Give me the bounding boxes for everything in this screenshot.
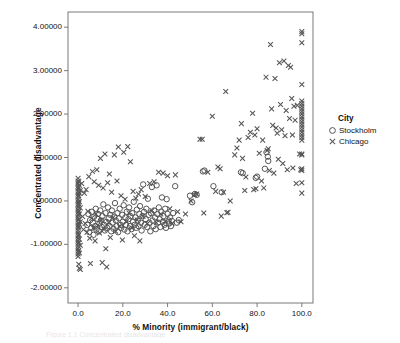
scatter-plot-figure: Concentrated disadvantage % Minority (im…: [0, 0, 400, 343]
cross-marker-icon: [299, 117, 304, 122]
cross-marker-icon: [116, 145, 121, 150]
cross-marker-icon: [299, 191, 304, 196]
cross-marker-icon: [121, 150, 126, 155]
cross-marker-icon: [86, 174, 91, 179]
circle-marker-icon: [126, 205, 131, 210]
cross-marker-icon: [299, 99, 304, 104]
cross-marker-icon: [252, 133, 257, 138]
cross-marker-icon: [275, 131, 280, 136]
cross-marker-icon: [288, 65, 293, 70]
cross-marker-icon: [277, 60, 282, 65]
cross-marker-icon: [273, 76, 278, 81]
circle-marker-icon: [139, 228, 144, 233]
cross-marker-icon: [107, 172, 112, 177]
cross-marker-icon: [242, 188, 247, 193]
cross-marker-icon: [261, 186, 266, 191]
cross-marker-icon: [299, 106, 304, 111]
cross-marker-icon: [280, 161, 285, 166]
circle-marker-icon: [148, 229, 153, 234]
cross-marker-icon: [299, 101, 304, 106]
cross-marker-icon: [282, 59, 287, 64]
circle-marker-icon: [262, 166, 267, 171]
cross-marker-icon: [115, 179, 120, 184]
legend-item-chicago[interactable]: Chicago: [327, 136, 376, 147]
cross-marker-icon: [292, 104, 297, 109]
legend-item-stockholm[interactable]: Stockholm: [327, 125, 376, 136]
cross-marker-icon: [283, 133, 288, 138]
cross-marker-icon: [103, 246, 108, 251]
circle-marker-icon: [254, 174, 259, 179]
cross-marker-icon: [278, 102, 283, 107]
cross-marker-icon: [223, 89, 228, 94]
circle-marker-icon: [253, 175, 258, 180]
cross-marker-icon: [94, 167, 99, 172]
cross-marker-icon: [276, 157, 281, 162]
cross-marker-icon: [109, 190, 114, 195]
circle-marker-icon: [211, 183, 216, 188]
circle-marker-icon: [327, 125, 338, 136]
cross-marker-icon: [299, 112, 304, 117]
cross-marker-icon: [132, 233, 137, 238]
circle-marker-icon: [172, 183, 177, 188]
cross-marker-icon: [330, 139, 335, 144]
series-chicago: [76, 29, 305, 272]
cross-marker-icon: [101, 186, 106, 191]
cross-marker-icon: [295, 103, 300, 108]
cross-marker-icon: [125, 144, 130, 149]
cross-marker-icon: [96, 183, 101, 188]
cross-marker-icon: [284, 108, 289, 113]
cross-marker-icon: [257, 151, 262, 156]
cross-marker-icon: [201, 211, 206, 216]
cross-marker-icon: [112, 152, 117, 157]
cross-marker-icon: [93, 238, 98, 243]
cross-marker-icon: [274, 126, 279, 131]
circle-marker-icon: [121, 203, 126, 208]
cross-marker-icon: [100, 260, 105, 265]
cross-marker-icon: [290, 166, 295, 171]
circle-marker-icon: [330, 128, 336, 134]
cross-marker-icon: [294, 181, 299, 186]
cross-marker-icon: [299, 40, 304, 45]
cross-marker-icon: [289, 96, 294, 101]
cross-marker-icon: [259, 179, 264, 184]
plot-canvas: [0, 0, 400, 343]
cross-marker-icon: [90, 169, 95, 174]
circle-marker-icon: [112, 200, 117, 205]
cross-marker-icon: [88, 261, 93, 266]
cross-marker-icon: [299, 133, 304, 138]
cross-marker-icon: [299, 119, 304, 124]
cross-marker-icon: [139, 187, 144, 192]
cross-marker-icon: [246, 135, 251, 140]
page-caption-fragment: Figure 1.1 Concentrated disadvantage: [46, 331, 206, 338]
cross-marker-icon: [299, 125, 304, 130]
cross-marker-icon: [156, 170, 161, 175]
cross-marker-icon: [105, 180, 110, 185]
cross-marker-icon: [103, 152, 108, 157]
cross-marker-icon: [270, 123, 275, 128]
cross-marker-icon: [327, 136, 338, 147]
legend-item-label: Stockholm: [338, 126, 376, 135]
cross-marker-icon: [161, 171, 166, 176]
cross-marker-icon: [248, 130, 253, 135]
cross-marker-icon: [299, 180, 304, 185]
cross-marker-icon: [299, 82, 304, 87]
cross-marker-icon: [173, 172, 178, 177]
circle-marker-icon: [164, 196, 169, 201]
cross-marker-icon: [183, 212, 188, 217]
cross-marker-icon: [120, 238, 125, 243]
cross-marker-icon: [299, 135, 304, 140]
cross-marker-icon: [285, 167, 290, 172]
cross-marker-icon: [299, 104, 304, 109]
cross-marker-icon: [137, 238, 142, 243]
cross-marker-icon: [260, 138, 265, 143]
cross-marker-icon: [293, 118, 298, 123]
cross-marker-icon: [239, 121, 244, 126]
circle-marker-icon: [154, 183, 159, 188]
cross-marker-icon: [210, 114, 215, 119]
cross-marker-icon: [250, 111, 255, 116]
cross-marker-icon: [219, 214, 224, 219]
cross-marker-icon: [299, 122, 304, 127]
cross-marker-icon: [267, 168, 272, 173]
cross-marker-icon: [98, 156, 103, 161]
cross-marker-icon: [243, 175, 248, 180]
